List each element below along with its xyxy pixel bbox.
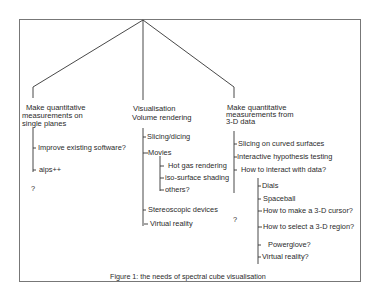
list-item: aips++ [39,166,61,174]
list-item: How to interact with data? [241,166,326,174]
list-item: Slicing on curved surfaces [238,140,324,148]
sub-list-item: How to make a 3-D cursor? [263,207,353,215]
sub-list-item: Powerglove? [268,241,311,249]
branch-heading-line: 3-D data [226,118,255,126]
sub-list-item: Spaceball [263,195,295,203]
branch-heading-line: single planes [22,120,66,128]
branch-heading-line: Visualisation [133,105,176,113]
sub-list-item: Virtual reality? [262,253,309,261]
sub-list-item: iso-surface shading [165,174,229,182]
list-item: Interactive hypothesis testing [237,153,332,161]
list-item: Virtual reality [150,220,193,228]
sub-list-item: Hot gas rendering [168,162,227,170]
trailing-question: ? [233,216,237,224]
trailing-question: ? [31,185,35,193]
sub-list-item: others? [165,186,190,194]
sub-list-item: Dials [262,182,278,190]
list-item: Improve existing software? [38,144,126,152]
list-item: Slicing/dicing [147,133,190,141]
sub-list-item: How to select a 3-D region? [263,223,354,231]
list-item: Movies [148,149,171,157]
branch-heading-line: Volume rendering [132,114,192,122]
figure-caption: Figure 1: the needs of spectral cube vis… [110,273,266,281]
list-item: Stereoscopic devices [148,206,218,214]
